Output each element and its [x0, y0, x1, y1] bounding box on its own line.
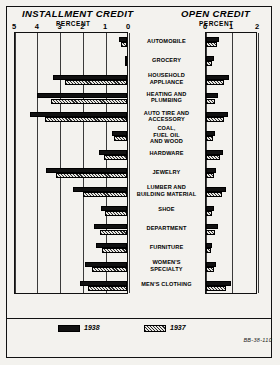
- right-axis-tick-2: 2: [255, 22, 259, 31]
- legend-swatch-1937: [144, 325, 166, 332]
- left-axis-tick-2: 2: [80, 22, 84, 31]
- bar-1937: [125, 61, 127, 66]
- bar-1937: [206, 267, 214, 272]
- gridline: [106, 33, 107, 293]
- bar-1937: [88, 286, 127, 291]
- legend-label-1938: 1938: [84, 324, 100, 331]
- bar-1937: [206, 248, 211, 253]
- bar-1937: [206, 192, 222, 197]
- bar-1937: [206, 286, 226, 291]
- bar-1937: [102, 248, 127, 253]
- left-axis-tick-4: 4: [35, 22, 39, 31]
- category-label: WOMEN'SSPECIALTY: [129, 259, 204, 272]
- legend-label-1937: 1937: [170, 324, 186, 331]
- bar-1937: [206, 211, 212, 216]
- bar-1937: [83, 192, 127, 197]
- category-label: HARDWARE: [129, 150, 204, 157]
- bar-1937: [206, 80, 224, 85]
- category-label: SHOE: [129, 206, 204, 213]
- gridline: [15, 33, 16, 293]
- bar-1937: [51, 99, 127, 104]
- category-label: HOUSEHOLDAPPLIANCE: [129, 72, 204, 85]
- bar-1937: [206, 155, 220, 160]
- chart-page: INSTALLMENT CREDIT OPEN CREDIT PERCENT P…: [0, 0, 280, 365]
- category-label: JEWELRY: [129, 169, 204, 176]
- legend-swatch-1938: [58, 325, 80, 332]
- gridline: [258, 33, 259, 293]
- bar-1937: [206, 173, 214, 178]
- left-axis-tick-5: 5: [12, 22, 16, 31]
- category-label: AUTO TIRE ANDACCESSORY: [129, 110, 204, 123]
- bar-1937: [65, 80, 127, 85]
- category-labels-column: AUTOMOBILEGROCERYHOUSEHOLDAPPLIANCEHEATI…: [129, 32, 204, 294]
- category-label: DEPARTMENT: [129, 225, 204, 232]
- category-label: HEATING ANDPLUMBING: [129, 91, 204, 104]
- right-panel-title: OPEN CREDIT: [181, 8, 250, 19]
- gridline: [37, 33, 38, 293]
- bar-1937: [114, 136, 127, 141]
- chart-titles: INSTALLMENT CREDIT OPEN CREDIT PERCENT P…: [0, 8, 264, 21]
- bar-1937: [121, 42, 127, 47]
- open-credit-panel: [205, 32, 257, 294]
- category-label: AUTOMOBILE: [129, 38, 204, 45]
- left-axis-tick-0: 0: [126, 22, 130, 31]
- category-label: FURNITURE: [129, 244, 204, 251]
- right-axis-tick-0: 0: [203, 22, 207, 31]
- category-label: MEN'S CLOTHING: [129, 281, 204, 288]
- gridline: [83, 33, 84, 293]
- bar-1937: [206, 42, 217, 47]
- bar-1937: [92, 267, 127, 272]
- gridline: [206, 33, 207, 293]
- legend-divider: [7, 318, 271, 319]
- gridline: [232, 33, 233, 293]
- category-label: GROCERY: [129, 57, 204, 64]
- bar-1937: [206, 230, 215, 235]
- gridline: [60, 33, 61, 293]
- left-axis-tick-3: 3: [58, 22, 62, 31]
- plate-number: BB-38-110: [243, 337, 272, 343]
- bar-1937: [206, 61, 212, 66]
- bar-1937: [104, 155, 127, 160]
- bar-1937: [206, 99, 215, 104]
- bar-1937: [206, 136, 213, 141]
- chart-legend: 1938 1937: [10, 322, 262, 338]
- category-label: LUMBER ANDBUILDING MATERIAL: [129, 184, 204, 197]
- installment-credit-panel: [14, 32, 128, 294]
- bar-1937: [105, 211, 127, 216]
- right-axis-tick-1: 1: [229, 22, 233, 31]
- bar-1937: [56, 173, 127, 178]
- category-label: COAL,FUEL OILAND WOOD: [129, 125, 204, 145]
- bar-1937: [100, 230, 127, 235]
- left-panel-title: INSTALLMENT CREDIT: [22, 8, 134, 19]
- bar-1937: [206, 117, 224, 122]
- left-axis-tick-1: 1: [103, 22, 107, 31]
- bar-1937: [45, 117, 127, 122]
